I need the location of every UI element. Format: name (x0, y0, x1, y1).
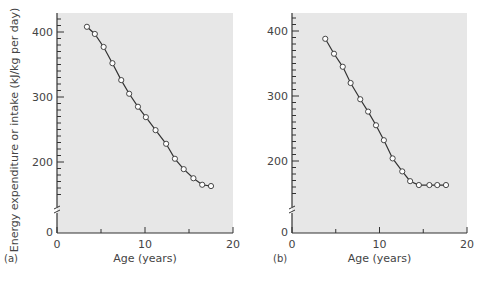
y-tick-label: 400 (32, 26, 53, 39)
data-point-marker (331, 51, 336, 56)
x-tick-label: 0 (54, 238, 61, 251)
data-point-marker (153, 128, 158, 133)
data-point-marker (101, 44, 106, 49)
panel-label: (b) (273, 253, 287, 264)
data-point-marker (208, 183, 213, 188)
data-point-marker (200, 182, 205, 187)
y-tick-label: 300 (267, 90, 288, 103)
y-tick-label: 0 (281, 226, 288, 239)
x-tick-label: 20 (460, 238, 474, 251)
data-point-marker (400, 169, 405, 174)
data-point-marker (435, 182, 440, 187)
data-point-marker (408, 179, 413, 184)
data-point-marker (340, 64, 345, 69)
y-tick-label: 300 (32, 91, 53, 104)
plot-area (57, 13, 233, 233)
y-tick-label: 400 (267, 25, 288, 38)
data-point-marker (358, 97, 363, 102)
x-tick-label: 20 (226, 238, 240, 251)
data-point-marker (416, 182, 421, 187)
data-point-marker (366, 109, 371, 114)
data-point-marker (84, 24, 89, 29)
data-point-marker (110, 61, 115, 66)
y-tick-label: 200 (267, 155, 288, 168)
x-axis-title: Age (years) (113, 252, 177, 265)
data-point-marker (164, 141, 169, 146)
x-tick-label: 10 (373, 238, 387, 251)
plot-area (292, 13, 467, 233)
data-point-marker (381, 138, 386, 143)
y-axis-title: Energy expenditure or intake (kJ/kg per … (8, 8, 21, 253)
data-point-marker (127, 91, 132, 96)
data-point-marker (135, 104, 140, 109)
chart-panel-a: 400300200001020Age (years)(a)Energy expe… (4, 8, 240, 265)
y-tick-label: 0 (46, 226, 53, 239)
x-axis-title: Age (years) (348, 252, 412, 265)
data-point-marker (119, 78, 124, 83)
data-point-marker (191, 176, 196, 181)
panel-label: (a) (4, 253, 18, 264)
data-point-marker (390, 156, 395, 161)
data-point-marker (443, 182, 448, 187)
data-point-marker (323, 36, 328, 41)
data-point-marker (92, 31, 97, 36)
data-point-marker (143, 115, 148, 120)
data-point-marker (172, 156, 177, 161)
data-point-marker (427, 182, 432, 187)
y-tick-label: 200 (32, 156, 53, 169)
figure: 400300200001020Age (years)(a)Energy expe… (0, 0, 483, 281)
data-point-marker (348, 80, 353, 85)
data-point-marker (181, 167, 186, 172)
chart-panel-b: 400300200001020Age (years)(b) (267, 13, 474, 265)
data-point-marker (373, 123, 378, 128)
x-tick-label: 10 (138, 238, 152, 251)
x-tick-label: 0 (289, 238, 296, 251)
